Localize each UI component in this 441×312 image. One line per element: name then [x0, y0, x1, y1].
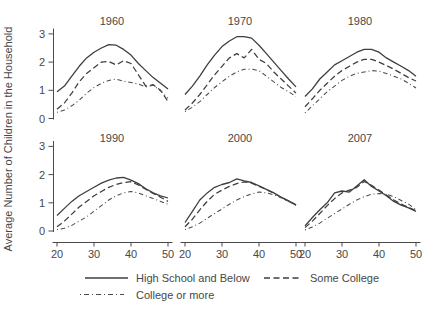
line-some-college-1970 — [185, 49, 296, 110]
line-some-college-1960 — [57, 61, 168, 109]
panel-title-1960: 1960 — [100, 15, 124, 27]
y-tick-label: 1 — [39, 84, 45, 96]
line-college-or-more-1970 — [185, 69, 296, 111]
legend-label-college-or-more: College or more — [136, 289, 214, 301]
x-tick-label: 30 — [216, 248, 228, 260]
x-axis-col1: 20 30 40 50 — [51, 243, 174, 260]
x-tick-label: 20 — [299, 248, 311, 260]
chart-canvas: Average Number of Children in the Househ… — [0, 0, 441, 312]
x-axis-col3: 20 30 40 50 — [299, 243, 422, 260]
x-tick-label: 50 — [162, 248, 174, 260]
legend: High School and Below Some College Colle… — [80, 272, 379, 301]
line-some-college-1990 — [57, 182, 168, 227]
panel-1980 — [305, 49, 416, 113]
y-axis-title: Average Number of Children in the Househ… — [2, 27, 14, 252]
line-college-or-more-1960 — [57, 79, 168, 112]
x-tick-label: 50 — [410, 248, 422, 260]
legend-label-high-school: High School and Below — [136, 272, 250, 284]
legend-label-some-college: Some College — [310, 272, 379, 284]
panel-title-2000: 2000 — [228, 132, 252, 144]
line-college-or-more-1990 — [57, 192, 168, 230]
y-axis-row1: 0 1 2 3 — [39, 28, 54, 125]
line-high-school-2000 — [185, 179, 296, 223]
line-some-college-1980 — [305, 59, 416, 106]
x-tick-label: 30 — [336, 248, 348, 260]
y-tick-label: 2 — [39, 169, 45, 181]
y-tick-label: 0 — [39, 113, 45, 125]
x-tick-label: 20 — [179, 248, 191, 260]
panel-title-1990: 1990 — [100, 132, 124, 144]
panel-title-2007: 2007 — [348, 132, 372, 144]
panel-2007 — [305, 180, 416, 230]
panel-1960 — [57, 45, 168, 113]
y-tick-label: 1 — [39, 197, 45, 209]
x-tick-label: 40 — [253, 248, 265, 260]
panel-2000 — [185, 179, 296, 230]
x-axis-col2: 20 30 40 50 — [179, 243, 302, 260]
x-tick-label: 20 — [51, 248, 63, 260]
y-tick-label: 2 — [39, 56, 45, 68]
x-tick-label: 30 — [88, 248, 100, 260]
panel-title-1970: 1970 — [228, 15, 252, 27]
panel-1990 — [57, 177, 168, 229]
panel-title-1980: 1980 — [348, 15, 372, 27]
line-high-school-2007 — [305, 180, 416, 226]
line-high-school-1970 — [185, 37, 296, 95]
x-tick-label: 40 — [125, 248, 137, 260]
line-high-school-1990 — [57, 177, 168, 215]
figure-children-by-education: Average Number of Children in the Househ… — [0, 0, 441, 312]
x-tick-label: 40 — [373, 248, 385, 260]
line-some-college-2000 — [185, 182, 296, 227]
y-axis-row2: 0 1 2 3 — [39, 140, 54, 237]
panel-1970 — [185, 37, 296, 112]
y-tick-label: 3 — [39, 140, 45, 152]
y-tick-label: 3 — [39, 28, 45, 40]
y-tick-label: 0 — [39, 225, 45, 237]
